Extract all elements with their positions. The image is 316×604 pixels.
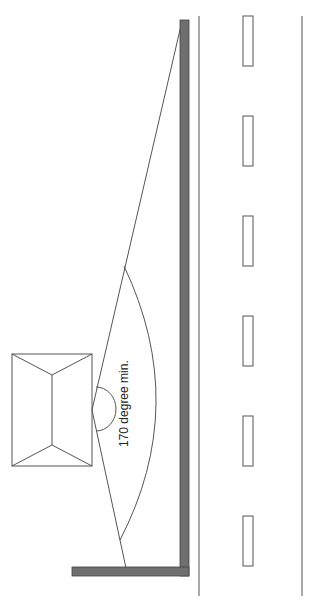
sight-line-diagram: 170 degree min. <box>0 0 316 604</box>
lane-markers <box>243 16 253 566</box>
sight-line-top <box>92 21 182 410</box>
angle-label: 170 degree min. <box>117 360 131 447</box>
house-roof-plan <box>12 354 92 466</box>
angle-arc <box>96 387 116 431</box>
boundary-wall <box>72 20 189 576</box>
